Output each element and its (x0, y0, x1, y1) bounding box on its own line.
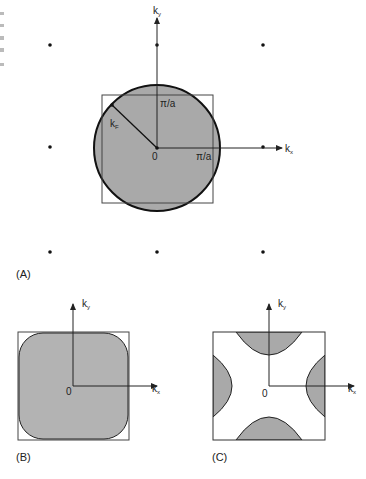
electron-pocket-bottom (236, 417, 302, 440)
panel-b-label: (B) (16, 451, 31, 463)
kx-label: kx (348, 383, 356, 395)
pi-over-a-top: π/a (160, 98, 176, 109)
panel-c: ky kx 0 (C) (212, 298, 356, 463)
panel-c-label: (C) (212, 451, 227, 463)
origin-label: 0 (152, 151, 158, 162)
kx-label: kx (152, 383, 160, 395)
kx-label: kx (285, 143, 293, 155)
panel-a: ky kx kF 0 π/a π/a (A) (16, 5, 293, 280)
ky-label: ky (278, 298, 286, 310)
pi-over-a-right: π/a (196, 151, 212, 162)
origin-label: 0 (262, 388, 268, 399)
electron-pocket-left (213, 355, 232, 417)
panel-a-label: (A) (16, 268, 31, 280)
panel-b: ky kx 0 (B) (16, 298, 160, 463)
fermi-surface-figure: ky kx kF 0 π/a π/a (A) ky kx 0 (B) (0, 0, 366, 479)
ky-label: ky (82, 298, 90, 310)
origin-label: 0 (66, 386, 72, 397)
ky-label: ky (153, 5, 161, 17)
